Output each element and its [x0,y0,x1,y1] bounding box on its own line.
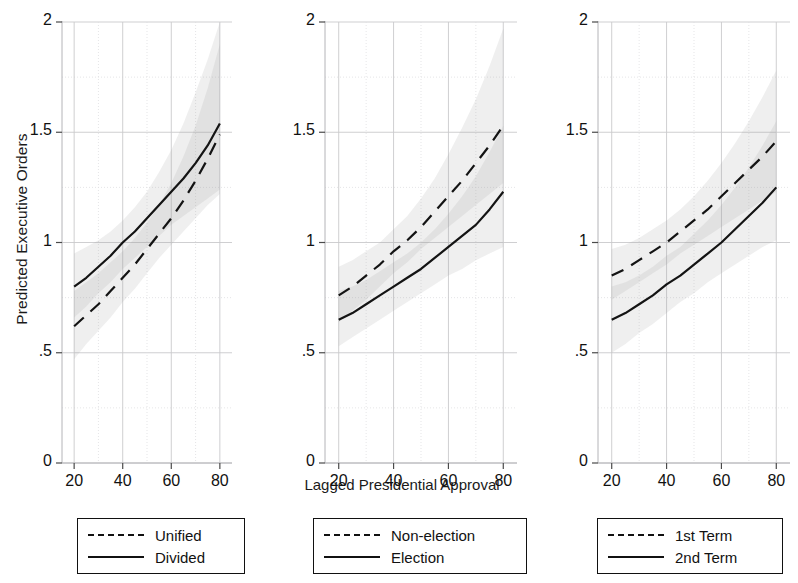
panel-election-year [319,21,517,469]
x-tick-label: 40 [101,472,145,490]
x-tick-label: 20 [590,472,634,490]
legend-item-label: Election [391,549,444,566]
legend-item-label: 2nd Term [675,549,737,566]
legend-item-label: Divided [155,549,205,566]
y-tick-label: 2 [544,11,588,29]
y-tick-label: 1.5 [8,121,52,139]
y-tick-label: 0 [544,452,588,470]
legend-item-label: Non-election [391,527,475,544]
panel-government-control [56,21,232,469]
legend-item-label: 1st Term [675,527,732,544]
plot-area [0,0,798,500]
panel-presidential-term [592,21,790,469]
legend-election-year: Non-electionElection [313,518,527,574]
legend-government-control: UnifiedDivided [77,518,245,574]
x-tick-label: 80 [198,472,242,490]
y-tick-label: 0 [8,452,52,470]
dashed-line-swatch-icon [608,528,664,542]
solid-line-swatch-icon [88,550,144,564]
y-tick-label: .5 [271,342,315,360]
y-tick-label: 1 [8,232,52,250]
x-tick-label: 60 [149,472,193,490]
legend-item-divided[interactable]: Divided [88,546,234,568]
y-tick-label: 1.5 [271,121,315,139]
legend-presidential-term: 1st Term2nd Term [597,518,783,574]
x-tick-label: 60 [699,472,743,490]
y-tick-label: 1.5 [544,121,588,139]
y-tick-label: 2 [8,11,52,29]
x-tick-label: 40 [372,472,416,490]
y-tick-label: .5 [544,342,588,360]
x-tick-label: 20 [52,472,96,490]
legend-item-non-election[interactable]: Non-election [324,524,516,546]
y-tick-label: 0 [271,452,315,470]
solid-line-swatch-icon [324,550,380,564]
legend-item-unified[interactable]: Unified [88,524,234,546]
y-tick-label: 1 [271,232,315,250]
x-tick-label: 80 [481,472,525,490]
x-tick-label: 80 [754,472,798,490]
figure-panel-chart: Predicted Executive Orders Lagged Presid… [0,0,798,583]
solid-line-swatch-icon [608,550,664,564]
x-tick-label: 40 [645,472,689,490]
dashed-line-swatch-icon [324,528,380,542]
y-tick-label: .5 [8,342,52,360]
legend-item-1st-term[interactable]: 1st Term [608,524,772,546]
legend-item-election[interactable]: Election [324,546,516,568]
x-tick-label: 20 [317,472,361,490]
y-tick-label: 1 [544,232,588,250]
dashed-line-swatch-icon [88,528,144,542]
y-tick-label: 2 [271,11,315,29]
x-tick-label: 60 [426,472,470,490]
legend-item-label: Unified [155,527,202,544]
legend-item-2nd-term[interactable]: 2nd Term [608,546,772,568]
